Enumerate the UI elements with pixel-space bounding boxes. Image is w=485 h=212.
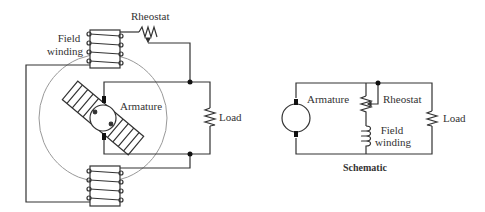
- schematic-load-resistor: [427, 111, 437, 126]
- schematic-field-coil: [362, 126, 371, 148]
- rheostat-label: Rheostat: [131, 10, 170, 22]
- schematic-title: Schematic: [343, 162, 387, 174]
- load-label: Load: [219, 111, 242, 123]
- schematic-armature: [282, 104, 310, 132]
- schematic-load-label: Load: [443, 112, 466, 124]
- junction-top: [188, 80, 193, 85]
- armature-rotor: [90, 105, 116, 131]
- schematic-rheostat-label: Rheostat: [383, 93, 422, 105]
- schematic-field-winding-line1: Field: [373, 124, 411, 136]
- field-winding-label-line2: winding: [46, 45, 84, 57]
- armature-label: Armature: [120, 100, 162, 112]
- junction-bottom: [188, 152, 193, 157]
- bottom-field-coil: [87, 166, 123, 206]
- field-winding-label-line1: Field: [54, 32, 84, 44]
- load-resistor: [205, 108, 215, 126]
- rheostat-resistor: [139, 27, 157, 37]
- schematic-rheostat: [361, 96, 371, 126]
- bottom-brush: [102, 133, 106, 140]
- top-brush: [102, 96, 106, 103]
- schematic-armature-label: Armature: [307, 93, 349, 105]
- top-field-coil: [87, 30, 123, 68]
- schematic-diagram: [282, 81, 437, 155]
- schematic-junction: [376, 81, 381, 86]
- schematic-field-winding-line2: winding: [373, 136, 413, 148]
- rheostat-wiper: [148, 43, 190, 82]
